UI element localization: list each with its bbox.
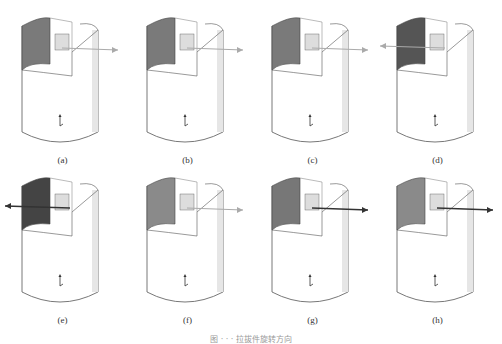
panel-label: (f) [125, 315, 250, 325]
figure-panel: (d) [375, 12, 500, 172]
panel-label: (a) [0, 155, 125, 165]
cylinder-model-diagram [250, 172, 375, 312]
cylinder-model-diagram [375, 172, 500, 312]
panel-label: (e) [0, 315, 125, 325]
figure-panel: (e) [0, 172, 125, 332]
panel-label: (g) [250, 315, 375, 325]
cylinder-model-diagram [125, 172, 250, 312]
figure-caption: 图 · · · 拉拔件旋转方向 [0, 333, 502, 344]
cylinder-model-diagram [0, 12, 125, 152]
figure-panel: (a) [0, 12, 125, 172]
cylinder-model-diagram [125, 12, 250, 152]
cylinder-model-diagram [375, 12, 500, 152]
figure-panel: (g) [250, 172, 375, 332]
panel-label: (d) [375, 155, 500, 165]
cylinder-model-diagram [250, 12, 375, 152]
figure-panel: (c) [250, 12, 375, 172]
figure-panel: (b) [125, 12, 250, 172]
cut-off-top-text [40, 0, 460, 6]
panel-label: (c) [250, 155, 375, 165]
panel-label: (b) [125, 155, 250, 165]
figure-panel: (f) [125, 172, 250, 332]
panel-label: (h) [375, 315, 500, 325]
cylinder-model-diagram [0, 172, 125, 312]
figure-panel: (h) [375, 172, 500, 332]
